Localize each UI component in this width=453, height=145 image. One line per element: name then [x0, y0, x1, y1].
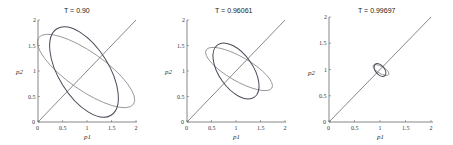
diagonal-line	[187, 20, 285, 122]
x-axis-label: p1	[83, 133, 91, 141]
y-tick-label: 2	[324, 14, 327, 20]
x-tick-label: 0.5	[351, 125, 359, 131]
y-tick-label: 0.5	[177, 94, 185, 100]
x-axis-label: p1	[232, 133, 240, 141]
y-tick-label: 1.5	[319, 40, 327, 46]
chart-panel-1: T = 0.90 0 0.5 1 1.5 2 0 0.5 1 1.5 2 p1 …	[0, 0, 151, 145]
x-tick-label: 0	[185, 125, 188, 131]
y-tick-label: 0.5	[319, 93, 327, 99]
y-tick-label: 0	[181, 119, 184, 125]
y-axis-label: p2	[164, 68, 173, 76]
diagonal-line	[329, 17, 431, 122]
x-tick-label: 2	[135, 125, 138, 131]
x-tick-label: 1.5	[402, 125, 410, 131]
y-tick-label: 0.5	[28, 94, 36, 100]
ellipse-dark	[36, 16, 132, 129]
plot-3: T = 0.99697 0 0.5 1 1.5 2 0 0.5 1 1.5 2 …	[302, 0, 453, 145]
x-tick-label: 1.5	[108, 125, 116, 131]
x-tick-label: 1.5	[257, 125, 265, 131]
y-tick-label: 0	[32, 119, 35, 125]
diagonal-line	[38, 20, 136, 122]
y-tick-label: 2	[33, 17, 36, 23]
x-tick-label: 2	[284, 125, 287, 131]
chart-title: T = 0.90	[64, 7, 90, 14]
y-tick-label: 1.5	[177, 43, 185, 49]
x-tick-label: 0	[36, 125, 39, 131]
plot-1: T = 0.90 0 0.5 1 1.5 2 0 0.5 1 1.5 2 p1 …	[0, 0, 151, 145]
x-tick-label: 0.5	[208, 125, 216, 131]
x-tick-label: 1	[235, 125, 238, 131]
y-tick-label: 1.5	[28, 43, 36, 49]
x-tick-label: 2	[430, 125, 433, 131]
y-tick-label: 0	[323, 119, 326, 125]
y-tick-label: 2	[182, 17, 185, 23]
chart-title: T = 0.96061	[215, 7, 253, 14]
chart-panel-3: T = 0.99697 0 0.5 1 1.5 2 0 0.5 1 1.5 2 …	[302, 0, 453, 145]
x-axis-label: p1	[376, 133, 384, 141]
x-tick-label: 0	[327, 125, 330, 131]
y-tick-label: 1	[33, 68, 36, 74]
chart-title: T = 0.99697	[358, 7, 396, 14]
y-axis-label: p2	[307, 69, 316, 77]
x-tick-label: 1	[379, 125, 382, 131]
y-axis-label: p2	[15, 68, 24, 76]
x-tick-label: 0.5	[59, 125, 67, 131]
x-tick-label: 1	[86, 125, 89, 131]
y-tick-label: 1	[182, 68, 185, 74]
plot-2: T = 0.96061 0 0.5 1 1.5 2 0 0.5 1 1.5 2 …	[151, 0, 302, 145]
ellipse-light	[200, 40, 278, 99]
y-tick-label: 1	[324, 67, 327, 73]
chart-panel-2: T = 0.96061 0 0.5 1 1.5 2 0 0.5 1 1.5 2 …	[151, 0, 302, 145]
